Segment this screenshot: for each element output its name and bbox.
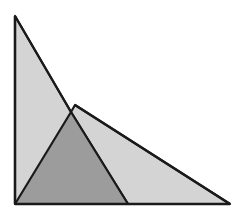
geometry-diagram <box>0 0 246 220</box>
